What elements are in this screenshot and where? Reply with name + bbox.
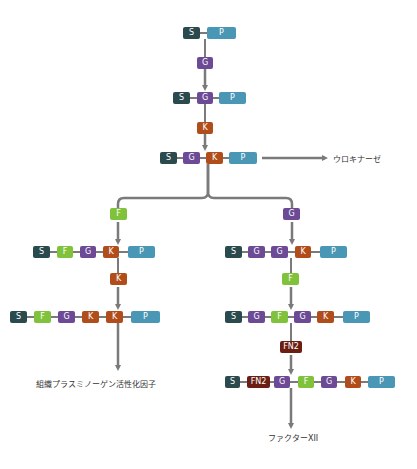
insert-f-left-box: F	[110, 208, 127, 220]
domain-p-box: P	[368, 376, 395, 388]
domain-p-box: P	[320, 246, 347, 258]
domain-s-box: S	[173, 92, 190, 104]
domain-p-box: P	[343, 311, 370, 323]
domain-g-box: G	[80, 246, 96, 258]
insert-g-1-box: G	[197, 57, 213, 69]
tpa-label: 組織プラスミノーゲン活性化因子	[36, 378, 156, 389]
insert-f-right-box: F	[282, 273, 299, 285]
domain-g-box: G	[321, 376, 337, 388]
domain-k-box: K	[295, 246, 311, 258]
domain-f-box: F	[271, 311, 288, 323]
domain-k-box: K	[106, 311, 123, 323]
domain-s-box: S	[10, 311, 27, 323]
urokinase-label: ウロキナーゼ	[333, 153, 381, 164]
domain-g-box: G	[248, 311, 265, 323]
factor12-label: ファクターXII	[268, 432, 318, 443]
domain-k-box: K	[317, 311, 334, 323]
domain-p-box: P	[229, 152, 257, 164]
branch-left	[118, 164, 208, 208]
insert-k-1-box: K	[197, 122, 213, 134]
domain-s-box: S	[225, 246, 242, 258]
domain-f-box: F	[57, 246, 73, 258]
domain-p-box: P	[131, 311, 160, 323]
domain-s-box: S	[183, 27, 200, 39]
domain-g-box: G	[183, 152, 200, 164]
domain-g-box: G	[271, 246, 288, 258]
domain-s-box: S	[225, 376, 240, 388]
branch-right	[208, 164, 292, 208]
insert-g-right-box: G	[283, 208, 300, 220]
domain-g-box: G	[248, 246, 265, 258]
domain-g-box: G	[274, 376, 290, 388]
domain-k-box: K	[206, 152, 223, 164]
domain-fn2-box: FN2	[247, 376, 270, 388]
domain-s-box: S	[33, 246, 50, 258]
domain-f-box: F	[298, 376, 314, 388]
domain-k-box: K	[345, 376, 361, 388]
insert-fn2-right-box: FN2	[280, 341, 302, 353]
domain-f-box: F	[34, 311, 51, 323]
domain-g-box: G	[197, 92, 213, 104]
domain-k-box: K	[103, 246, 119, 258]
domain-p-box: P	[219, 92, 246, 104]
domain-k-box: K	[82, 311, 99, 323]
protein-domain-evolution-diagram	[0, 0, 417, 469]
domain-p-box: P	[207, 27, 236, 39]
domain-p-box: P	[128, 246, 155, 258]
domain-s-box: S	[160, 152, 177, 164]
domain-g-box: G	[58, 311, 75, 323]
domain-s-box: S	[225, 311, 242, 323]
insert-k-left-box: K	[110, 273, 127, 285]
domain-g-box: G	[294, 311, 311, 323]
